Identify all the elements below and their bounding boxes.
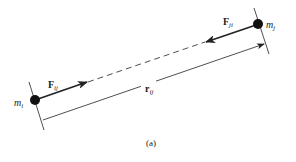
extension-line-i <box>29 82 44 130</box>
force-f-ij-label: Fij <box>48 79 58 92</box>
figure-caption: (a) <box>146 138 156 148</box>
two-body-force-diagram: mi mj Fij Fji rij (a) <box>0 0 296 162</box>
mass-j-label: mj <box>266 19 275 32</box>
mass-i-ball <box>30 95 40 105</box>
extension-line-j <box>254 8 269 54</box>
force-arrow-f-ij <box>38 82 87 99</box>
mass-j-ball <box>253 19 263 29</box>
mass-i-label: mi <box>14 97 23 110</box>
force-f-ji-label: Fji <box>223 16 233 29</box>
line-of-action-dashed <box>88 42 205 82</box>
